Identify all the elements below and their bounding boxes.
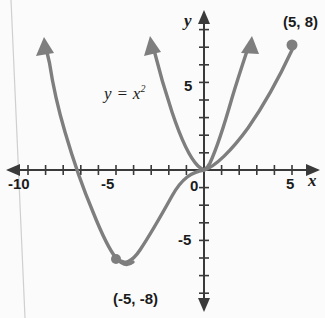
y-tick-label-minus5: -5: [178, 232, 191, 247]
narrow-parabola-right-branch: [204, 48, 248, 170]
wide-parabola-left-arrowhead: [36, 37, 54, 56]
axis-group: [6, 10, 320, 312]
x-tick-label-minus5: -5: [101, 176, 114, 191]
narrow-parabola-left-branch: [154, 50, 204, 170]
equation-label-exponent: 2: [141, 83, 146, 94]
x-tick-label-5: 5: [286, 176, 294, 191]
y-tick-label-5: 5: [184, 78, 192, 93]
curve-y-equals-x-squared: [144, 36, 259, 170]
narrow-parabola-right-arrowhead: [241, 36, 259, 54]
scan-artifact-line: [11, 0, 25, 318]
point-label-minus5-minus8: (-5, -8): [113, 291, 158, 306]
x-tick-label-minus10: -10: [8, 176, 30, 191]
x-tick-label-zero: 0: [190, 178, 198, 193]
point-label-5-8: (5, 8): [283, 14, 318, 29]
equation-label: y = x2: [104, 84, 146, 102]
y-axis-label: y: [184, 12, 192, 29]
equation-label-base: y = x: [104, 84, 141, 103]
narrow-parabola-left-arrowhead: [144, 36, 161, 56]
x-axis-label: x: [308, 172, 317, 189]
wide-parabola-left-branch: [46, 48, 133, 264]
y-axis-arrow-up: [198, 10, 210, 24]
coordinate-plane-svg: [0, 0, 325, 318]
graph-figure: -10 -5 0 5 5 -5 x y y = x2 (5, 8) (-5, -…: [0, 0, 325, 318]
point-marker-minus5-minus8: [111, 254, 121, 264]
curve-wide-parabola: [36, 37, 292, 311]
point-marker-5-8: [287, 40, 298, 51]
y-axis-arrow-down: [198, 298, 210, 312]
point-5-8-group: [287, 40, 298, 51]
